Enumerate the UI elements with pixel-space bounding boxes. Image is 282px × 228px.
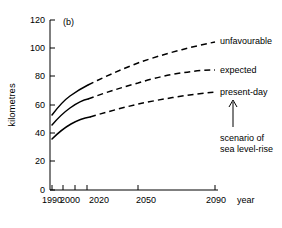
- y-tick-label-80: 80: [35, 71, 45, 81]
- series-label-expected: expected: [220, 65, 257, 75]
- x-tick-label-2090: 2090: [206, 195, 226, 205]
- series-label-present-day: present-day: [220, 87, 268, 97]
- y-tick-label-100: 100: [30, 43, 45, 53]
- scenario-note-line1: scenario of: [220, 133, 265, 143]
- y-axis-title: kilometres: [6, 83, 17, 127]
- series-present-day-solid: [52, 117, 90, 139]
- x-axis: [50, 185, 218, 190]
- series-expected: [52, 70, 215, 125]
- x-tick-label-2050: 2050: [136, 195, 156, 205]
- series-present-day-dashed: [90, 92, 215, 117]
- y-tick-label-120: 120: [30, 15, 45, 25]
- series-present-day: [52, 92, 215, 139]
- y-tick-label-60: 60: [35, 100, 45, 110]
- y-tick-label-20: 20: [35, 156, 45, 166]
- x-tick-label-2020: 2020: [89, 195, 109, 205]
- x-axis-title: year: [237, 195, 255, 205]
- scenario-note-line2: sea level-rise: [220, 144, 273, 154]
- chart-svg: 120 100 80 60 40 20 0 kilometres 1990 20…: [0, 0, 282, 228]
- scenario-arrow-icon: [229, 100, 237, 127]
- chart-figure: 120 100 80 60 40 20 0 kilometres 1990 20…: [0, 0, 282, 228]
- panel-label: (b): [63, 17, 74, 27]
- y-tick-labels: 120 100 80 60 40 20 0: [30, 15, 45, 195]
- series-label-unfavourable: unfavourable: [220, 36, 272, 46]
- y-axis: [50, 20, 55, 190]
- series-expected-solid: [52, 99, 88, 125]
- y-tick-label-0: 0: [40, 185, 45, 195]
- series-unfavourable-dashed: [88, 42, 215, 85]
- x-tick-label-2000: 2000: [60, 195, 80, 205]
- y-tick-label-40: 40: [35, 128, 45, 138]
- series-expected-dashed: [88, 70, 215, 99]
- x-tick-labels: 1990 2000 2020 2050 2090 year: [42, 195, 255, 205]
